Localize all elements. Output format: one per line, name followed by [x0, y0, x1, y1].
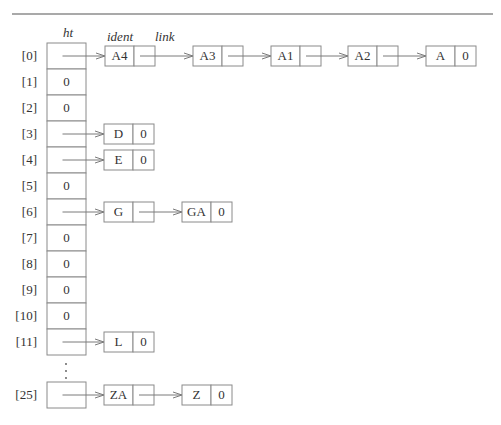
- node-null-link: 0: [140, 126, 147, 141]
- node-null-link: 0: [218, 204, 225, 219]
- ellipsis-dot: [65, 370, 67, 372]
- row-index-label: [2]: [22, 100, 37, 115]
- node-ident: A: [436, 48, 446, 63]
- row-index-label: [3]: [22, 126, 37, 141]
- link-header: link: [155, 29, 175, 44]
- row-index-label: [8]: [22, 256, 37, 271]
- null-pointer: 0: [63, 230, 70, 245]
- row-index-label: [11]: [16, 334, 37, 349]
- node-ident: Z: [193, 387, 201, 402]
- row-index-label: [10]: [15, 308, 37, 323]
- row-index-label: [5]: [22, 178, 37, 193]
- ellipsis-dot: [65, 377, 67, 379]
- null-pointer: 0: [63, 308, 70, 323]
- row-index-label: [1]: [22, 74, 37, 89]
- null-pointer: 0: [63, 256, 70, 271]
- node-ident: D: [114, 126, 123, 141]
- node-null-link: 0: [140, 152, 147, 167]
- node-null-link: 0: [140, 334, 147, 349]
- node-ident: G: [114, 204, 123, 219]
- row-index-label: [0]: [22, 48, 37, 63]
- null-pointer: 0: [63, 74, 70, 89]
- node-null-link: 0: [218, 387, 225, 402]
- null-pointer: 0: [63, 178, 70, 193]
- hash-table-diagram: ht ident link [0]A4A3A1A2A0[1]0[2]0[3]D0…: [0, 0, 501, 425]
- row-index-label: [9]: [22, 282, 37, 297]
- ht-header: ht: [63, 25, 74, 40]
- node-ident: A3: [200, 48, 216, 63]
- node-ident: E: [115, 152, 123, 167]
- null-pointer: 0: [63, 282, 70, 297]
- node-ident: GA: [187, 204, 206, 219]
- ellipsis-dot: [65, 363, 67, 365]
- row-index-label: [25]: [15, 387, 37, 402]
- node-ident: A4: [112, 48, 128, 63]
- node-ident: A2: [355, 48, 371, 63]
- row-index-label: [4]: [22, 152, 37, 167]
- node-null-link: 0: [462, 48, 469, 63]
- row-index-label: [7]: [22, 230, 37, 245]
- null-pointer: 0: [63, 100, 70, 115]
- node-ident: A1: [278, 48, 294, 63]
- hash-table: [0]A4A3A1A2A0[1]0[2]0[3]D0[4]E0[5]0[6]GG…: [15, 43, 476, 408]
- row-index-label: [6]: [22, 204, 37, 219]
- node-ident: ZA: [110, 387, 128, 402]
- node-ident: L: [115, 334, 123, 349]
- ident-header: ident: [107, 29, 133, 44]
